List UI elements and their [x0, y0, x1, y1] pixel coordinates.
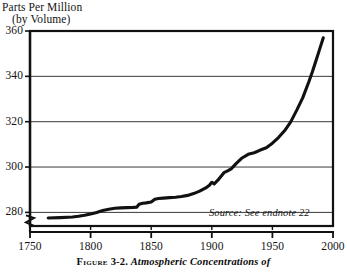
- data-series-line: [48, 38, 323, 218]
- y-tick-label-300: 300: [0, 160, 23, 172]
- source-note: Source: See endnote 22: [209, 207, 310, 218]
- figure-container: Parts Per Million (by Volume) 2803003203…: [0, 0, 347, 273]
- x-tick-label-1950: 1950: [252, 240, 292, 252]
- plot-frame: [29, 31, 334, 232]
- y-tick-label-280: 280: [0, 205, 23, 217]
- x-tick-label-1900: 1900: [192, 240, 232, 252]
- figure-caption-number: 3-2.: [111, 256, 131, 267]
- y-tick-label-320: 320: [0, 115, 23, 127]
- x-tick-label-1750: 1750: [10, 240, 50, 252]
- x-tick-label-2000: 2000: [313, 240, 347, 252]
- chart-plot-area: [0, 0, 347, 273]
- figure-caption-label: Figure: [77, 256, 111, 267]
- y-tick-label-340: 340: [0, 69, 23, 81]
- axis-break-zigzag: [26, 215, 34, 226]
- figure-caption: Figure 3-2. Atmospheric Concentrations o…: [0, 256, 347, 267]
- y-tick-label-360: 360: [0, 24, 23, 36]
- x-tick-label-1850: 1850: [131, 240, 171, 252]
- figure-caption-text: Atmospheric Concentrations of: [131, 256, 271, 267]
- y-axis-break-symbol: [26, 215, 34, 226]
- x-tick-label-1800: 1800: [71, 240, 111, 252]
- gridlines-group: [30, 76, 333, 212]
